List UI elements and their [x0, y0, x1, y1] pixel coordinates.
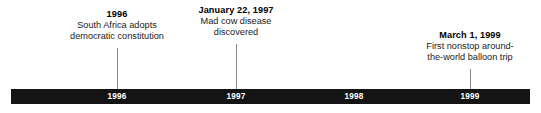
timeline-year-1999: 1999 [460, 89, 479, 104]
event-description-line: First nonstop around- [426, 41, 513, 52]
timeline-bar: 1996 1997 1998 1999 [11, 89, 530, 104]
timeline-figure: 1996 South Africa adopts democratic cons… [0, 0, 541, 113]
event-annotation-1997: January 22, 1997 Mad cow disease discove… [198, 5, 273, 39]
event-annotation-1999: March 1, 1999 First nonstop around- the-… [426, 30, 513, 64]
event-description-line: Mad cow disease [198, 16, 273, 27]
event-description-line: South Africa adopts [70, 20, 164, 31]
timeline-year-1997: 1997 [226, 89, 245, 104]
timeline-year-1996: 1996 [107, 89, 126, 104]
leader-line-1997 [236, 44, 237, 89]
event-description-line: democratic constitution [70, 31, 164, 42]
leader-line-1999 [470, 69, 471, 89]
event-date: 1996 [70, 9, 164, 20]
event-date: March 1, 1999 [426, 30, 513, 41]
event-description-line: discovered [198, 27, 273, 38]
event-description-line: the-world balloon trip [426, 52, 513, 63]
leader-line-1996 [117, 48, 118, 89]
timeline-year-1998: 1998 [344, 89, 363, 104]
event-date: January 22, 1997 [198, 5, 273, 16]
event-annotation-1996: 1996 South Africa adopts democratic cons… [70, 9, 164, 43]
